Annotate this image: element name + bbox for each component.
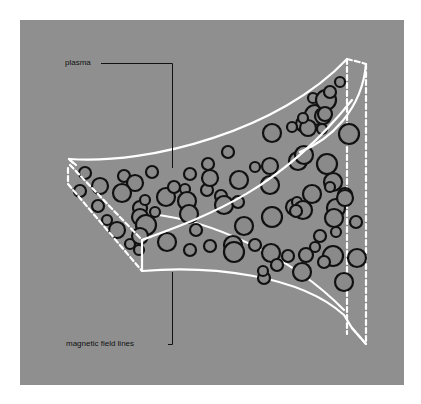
plasma-particle	[298, 113, 308, 123]
plasma-particle	[293, 263, 311, 281]
plasma-particle	[263, 124, 281, 142]
plasma-field-diagram	[0, 0, 421, 404]
magnetic-field-lines-label: magnetic field lines	[66, 339, 134, 349]
plasma-particle	[150, 207, 160, 217]
plasma-particle	[202, 158, 214, 170]
plasma-particle	[282, 250, 294, 262]
plasma-particle	[262, 158, 278, 174]
plasma-particle	[290, 205, 302, 217]
plasma-particle	[132, 228, 148, 244]
plasma-particle	[92, 200, 104, 212]
plasma-particle	[325, 209, 343, 227]
plasma-particle	[337, 190, 353, 206]
plasma-particle	[271, 259, 283, 271]
plasma-particle	[325, 182, 335, 192]
plasma-particle	[324, 86, 336, 98]
plasma-particle	[303, 185, 321, 203]
plasma-particle	[314, 230, 326, 242]
plasma-particle	[158, 233, 176, 251]
plasma-particle	[190, 224, 202, 236]
plasma-particle	[222, 146, 234, 158]
plasma-particle	[224, 242, 244, 262]
plasma-label: plasma	[65, 58, 91, 68]
plasma-particle	[299, 248, 313, 262]
plasma-particle	[102, 215, 112, 225]
plasma-particle	[348, 249, 366, 267]
plasma-particle	[335, 273, 353, 291]
plasma-particle	[74, 185, 86, 197]
plasma-particle	[249, 239, 261, 251]
plasma-particle	[339, 124, 359, 144]
plasma-particle	[318, 107, 332, 121]
plasma-particle	[350, 216, 362, 228]
plasma-particle	[113, 184, 131, 202]
plasma-particles	[74, 77, 366, 291]
plasma-particle	[335, 77, 345, 87]
plasma-particle	[262, 207, 282, 227]
plasma-particle	[258, 266, 268, 276]
plasma-particle	[140, 195, 150, 205]
plasma-particle	[184, 244, 196, 256]
plasma-particle	[230, 171, 248, 189]
plasma-particle	[295, 146, 313, 164]
plasma-particle	[202, 170, 218, 186]
plasma-particle	[146, 166, 158, 178]
magnetic-field-leader-line	[168, 272, 173, 345]
plasma-particle	[250, 162, 260, 172]
plasma-particle	[168, 181, 180, 193]
plasma-particle	[287, 122, 297, 132]
plasma-particle	[235, 217, 253, 235]
plasma-particle	[331, 227, 341, 237]
plasma-particle	[204, 240, 216, 252]
plasma-particle	[184, 168, 196, 180]
plasma-particle	[318, 256, 330, 268]
plasma-particle	[317, 154, 337, 174]
